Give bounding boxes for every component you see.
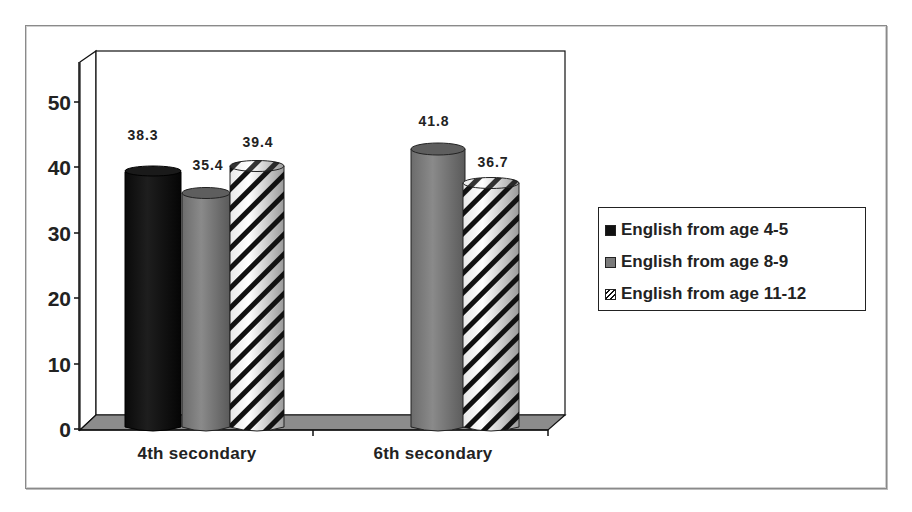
x-category-label: 6th secondary [373,444,492,463]
data-label: 38.3 [127,127,158,143]
x-axis: 4th secondary 6th secondary [79,430,548,463]
y-axis: 0 10 20 30 40 50 [48,62,79,441]
y-tick-label: 40 [48,156,71,179]
data-label: 41.8 [418,113,449,129]
y-tick-label: 10 [48,353,71,376]
chart-legend: English from age 4-5 English from age 8-… [598,207,866,311]
legend-label: English from age 4-5 [621,220,788,240]
legend-swatch-hatched-icon [605,289,616,300]
y-tick-label: 20 [48,287,71,310]
legend-label: English from age 8-9 [621,252,788,272]
y-tick-label: 30 [48,222,71,245]
legend-item-age-4-5: English from age 4-5 [605,214,865,246]
bar-4th-age-8-9 [182,188,230,432]
data-label: 35.4 [192,157,223,173]
legend-label: English from age 11-12 [621,284,806,304]
y-tick-label: 0 [59,418,71,441]
legend-item-age-8-9: English from age 8-9 [605,246,865,278]
bar-6th-age-11-12 [463,178,519,432]
legend-item-age-11-12: English from age 11-12 [605,278,865,310]
legend-swatch-solid-gray-icon [605,257,616,268]
bar-4th-age-11-12 [230,161,284,432]
x-category-label: 4th secondary [137,444,256,463]
y-tick-label: 50 [48,91,71,114]
data-label: 36.7 [477,154,508,170]
bar-4th-age-4-5 [125,166,181,431]
legend-swatch-solid-black-icon [605,225,616,236]
bar-6th-age-8-9 [411,143,465,431]
data-label: 39.4 [242,134,273,150]
